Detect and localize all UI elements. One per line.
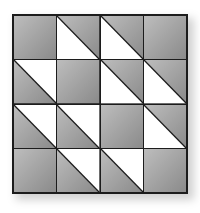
tile-r0-c3-gray (144, 16, 186, 59)
tile-r1-c3-split-wb (144, 60, 186, 103)
tile-r0-c1-split-wb (57, 16, 99, 59)
tile-r3-c0-gray (14, 149, 56, 192)
tile-r0-c2-split-wb (101, 16, 143, 59)
tile-r2-c0-split-wt (14, 105, 56, 148)
tile-r1-c2-split-wb (101, 60, 143, 103)
tile-r3-c1-split-wt (57, 149, 99, 192)
tile-r1-c1-gray (57, 60, 99, 103)
tile-r3-c2-split-wt (101, 149, 143, 192)
tile-r2-c2-gray (101, 105, 143, 148)
tile-grid (12, 14, 188, 194)
tile-r3-c3-gray (144, 149, 186, 192)
tile-r1-c0-split-wt (14, 60, 56, 103)
tile-r0-c0-gray (14, 16, 56, 59)
tile-r2-c3-split-wb (144, 105, 186, 148)
tile-r2-c1-split-wt (57, 105, 99, 148)
